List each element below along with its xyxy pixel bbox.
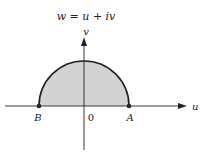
v-axis-label: v bbox=[83, 26, 89, 37]
v-axis-arrow-icon bbox=[81, 37, 87, 46]
u-axis-label: u bbox=[192, 101, 198, 112]
diagram-title: w = u + iv bbox=[57, 10, 116, 23]
diagram-canvas: w = u + iv v u B 0 A bbox=[0, 0, 206, 155]
point-b-label: B bbox=[33, 112, 41, 123]
point-b-marker bbox=[37, 104, 42, 109]
u-axis-arrow-icon bbox=[178, 103, 187, 109]
point-a-marker bbox=[127, 104, 132, 109]
origin-label: 0 bbox=[88, 112, 94, 123]
point-a-label: A bbox=[125, 112, 133, 123]
